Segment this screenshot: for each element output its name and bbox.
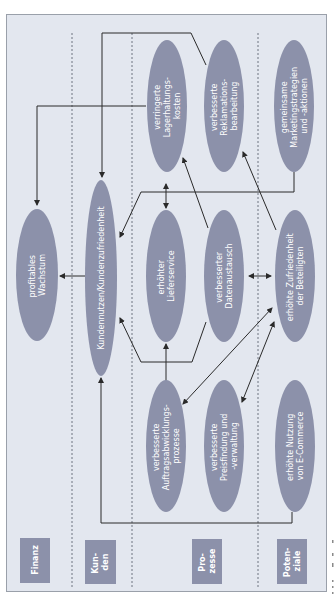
strategy-map-diagram: profitables Wachstum Kundennutzen/Kunden… [0, 0, 335, 598]
svg-text:profitables Wachstum: profitables Wachstum [28, 252, 47, 297]
node-marketing-line3: und -aktionen [300, 78, 309, 134]
label-finanz: Finanz [31, 545, 40, 575]
node-datenaustausch [204, 210, 244, 342]
node-ecommerce-line2: von E-Commerce [296, 412, 305, 481]
node-wachstum-line1: profitables [28, 255, 37, 298]
svg-text:Kundennutzen/Kundenzufriedenhe: Kundennutzen/Kundenzufriedenheit [97, 206, 106, 349]
label-prozesse-line2: zesse [208, 548, 217, 574]
label-box-prozesse [192, 539, 222, 584]
label-potenziale-line1: Poten- [283, 548, 292, 578]
node-zufriedenheit-line1: erhöhte Zufriedenheit [286, 233, 295, 321]
svg-text:verbesserter Datenaustau: verbesserter Datenaustausch [215, 243, 234, 308]
svg-text:erhöhter Lieferservice: erhöhter Lieferservice [157, 250, 176, 301]
node-labels: profitables Wachstum Kundennutzen/Kunden… [28, 64, 309, 490]
node-datenaustausch-line1: verbesserter [215, 251, 224, 303]
node-preisfindung-line1: verbesserte [210, 423, 219, 471]
node-lieferservice [146, 210, 186, 342]
node-reklamation-line1: verbesserte [210, 83, 219, 131]
node-datenaustausch-line2: Datenaustausch [225, 243, 234, 308]
caption-marks [332, 540, 334, 594]
node-marketing-line2: Marketingstrategien [290, 67, 299, 148]
arrow-zufriedenheit-to-reklamation [243, 152, 276, 230]
node-wachstum-line2: Wachstum [38, 254, 47, 296]
label-kunden-line1: Kun- [91, 553, 100, 574]
node-ecommerce-line1: erhöhte Nutzung [286, 414, 295, 481]
label-kunden-line2: den [101, 553, 110, 570]
arrow-ecommerce-to-kundennutzen [101, 378, 292, 523]
node-wachstum [16, 209, 58, 341]
arrow-datenaustausch-to-lagerhaltung [183, 158, 208, 228]
label-prozesse-line1: Pro- [198, 553, 207, 572]
node-zufriedenheit [275, 210, 315, 342]
node-auftrag-line2: Auftragsabwicklungs- [162, 404, 171, 490]
svg-text:erhöhte Nutzung von E-Co: erhöhte Nutzung von E-Commerce [286, 411, 305, 481]
arrow-lagerhaltung-to-wachstum [37, 106, 146, 205]
node-auftrag-line1: verbesserte [152, 423, 161, 471]
svg-text:Finanz: Finanz [31, 545, 40, 575]
node-preisfindung-line2: Preisfindung und [220, 414, 229, 481]
node-reklamation-line2: Reklamations- [220, 79, 229, 136]
node-lieferservice-line1: erhöhter [157, 259, 166, 294]
node-auftrag-line3: prozesse [172, 428, 181, 464]
node-lieferservice-line2: Lieferservice [167, 250, 176, 301]
node-lagerhaltung-line2: Lagerhaltungs- [163, 77, 172, 137]
node-lagerhaltung-line1: verringerte [153, 85, 162, 130]
node-lagerhaltung-line3: kosten [173, 93, 182, 120]
label-box-potenziale [277, 539, 307, 584]
svg-text:Kun- den: Kun- den [91, 550, 110, 574]
node-ecommerce [275, 380, 315, 512]
node-zufriedenheit-line2: der Beteiligten [296, 246, 305, 305]
node-reklamation-line3: bearbeitung [230, 82, 239, 131]
svg-text:verbesserte Reklamations: verbesserte Reklamations- bearbeitung [210, 76, 239, 136]
arrow-marketing-to-kundennutzen [120, 172, 294, 237]
svg-text:Pro- zesse: Pro- zesse [198, 548, 217, 574]
label-potenziale-line2: ziale [293, 550, 302, 572]
node-kundennutzen-line1: Kundennutzen/Kundenzufriedenheit [97, 206, 106, 349]
node-preisfindung-line3: -verwaltung [230, 422, 239, 470]
perspective-labels: Finanz Kun- den Pro- zesse Poten- ziale [20, 538, 307, 584]
node-marketing-line1: gemeinsame [280, 81, 289, 133]
